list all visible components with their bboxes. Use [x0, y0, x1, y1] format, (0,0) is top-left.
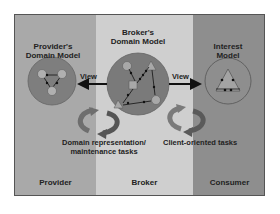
consumer-footer-label: Consumer [193, 178, 265, 187]
interest-model-icon [205, 58, 251, 104]
broker-model-title: Broker's Domain Model [98, 28, 178, 46]
diagram-frame: Provider's Domain Model Broker's Domain … [14, 14, 265, 196]
broker-footer-label: Broker [96, 178, 193, 187]
domain-tasks-label: Domain representation/ maintenance tasks [49, 138, 159, 156]
view-label-left: View [80, 72, 97, 81]
provider-domain-model-icon [28, 57, 76, 105]
client-tasks-cycle-icon [170, 104, 203, 137]
broker-domain-model-icon [107, 53, 169, 115]
client-tasks-label: Client-oriented tasks [163, 138, 237, 147]
provider-footer-label: Provider [15, 178, 96, 187]
view-label-right: View [172, 72, 189, 81]
interest-model-title: Interest Model [195, 42, 261, 60]
domain-tasks-cycle-icon [80, 107, 117, 139]
provider-model-title: Provider's Domain Model [17, 42, 89, 60]
